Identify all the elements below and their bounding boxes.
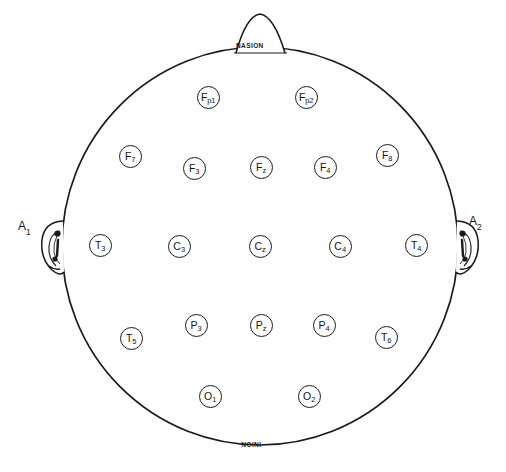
electrode-label: Fp1: [201, 91, 215, 102]
head-outline-svg: [0, 0, 506, 472]
electrode-label-subscript: 4: [326, 323, 330, 332]
electrode-label: P3: [191, 319, 202, 330]
electrode-label-base: P: [191, 318, 198, 330]
electrode-label-base: O: [303, 389, 311, 401]
electrode-label-subscript: 3: [195, 166, 199, 175]
electrode-label: O2: [303, 390, 315, 401]
nasion-label: NASION: [236, 42, 264, 49]
electrode-label-subscript: 4: [326, 165, 330, 174]
right-ear-reference-base: A: [469, 214, 477, 228]
electrode-label: C4: [334, 240, 345, 251]
electrode-label-subscript: 2: [311, 394, 315, 403]
electrode-label-subscript: p2: [305, 95, 313, 104]
electrode-p4[interactable]: P4: [313, 314, 336, 337]
electrode-label-subscript: 7: [131, 154, 135, 163]
electrode-label-subscript: 3: [198, 323, 202, 332]
electrode-label-subscript: 6: [387, 335, 391, 344]
electrode-label: T5: [126, 332, 136, 343]
left-ear-reference-label: A1: [18, 219, 31, 235]
left-ear-icon: [42, 221, 64, 274]
electrode-label-subscript: 8: [388, 153, 392, 162]
electrode-label-base: O: [204, 389, 212, 401]
electrode-label-base: C: [255, 239, 262, 251]
electrode-label: Fp2: [299, 91, 313, 102]
electrode-label-subscript: 4: [417, 243, 421, 252]
electrode-label: O1: [204, 390, 216, 401]
electrode-c3[interactable]: C3: [168, 235, 191, 258]
electrode-label-subscript: 1: [212, 394, 216, 403]
electrode-fz[interactable]: Fz: [250, 156, 273, 179]
electrode-label-base: C: [173, 239, 180, 251]
electrode-p3[interactable]: P3: [185, 314, 208, 337]
inion-label: INION: [241, 441, 261, 448]
electrode-label: T3: [95, 239, 105, 250]
electrode-label: F7: [125, 150, 135, 161]
electrode-t3[interactable]: T3: [89, 234, 112, 257]
electrode-label: P4: [319, 319, 330, 330]
electrode-label: F3: [189, 162, 199, 173]
eeg-electrode-diagram: NASION INION A1 A2 Fp1Fp2F7F3FzF4F8T3C3C…: [0, 0, 506, 472]
electrode-label: Cz: [255, 240, 266, 251]
electrode-label-subscript: z: [262, 244, 266, 253]
electrode-fp2[interactable]: Fp2: [295, 86, 318, 109]
electrode-t4[interactable]: T4: [405, 234, 428, 257]
electrode-label-subscript: 5: [132, 336, 136, 345]
electrode-f3[interactable]: F3: [183, 157, 206, 180]
electrode-label-subscript: p1: [207, 95, 215, 104]
electrode-t6[interactable]: T6: [375, 326, 398, 349]
electrode-label: F8: [382, 149, 392, 160]
electrode-label: F4: [320, 161, 330, 172]
electrode-label: Fz: [256, 161, 266, 172]
electrode-t5[interactable]: T5: [120, 327, 143, 350]
electrode-label-base: P: [256, 318, 263, 330]
electrode-f7[interactable]: F7: [119, 145, 142, 168]
electrode-label: T4: [411, 239, 421, 250]
electrode-label: C3: [173, 240, 184, 251]
left-ear-reference-base: A: [18, 219, 26, 233]
electrode-label-subscript: 3: [101, 243, 105, 252]
electrode-o2[interactable]: O2: [298, 385, 321, 408]
electrode-label-subscript: z: [263, 165, 267, 174]
electrode-o1[interactable]: O1: [199, 385, 222, 408]
electrode-label-base: C: [334, 239, 341, 251]
electrode-pz[interactable]: Pz: [250, 314, 273, 337]
electrode-label-base: P: [319, 318, 326, 330]
left-ear-reference-sub: 1: [26, 227, 31, 237]
electrode-label-subscript: 3: [181, 244, 185, 253]
right-ear-reference-label: A2: [469, 214, 482, 230]
electrode-label-subscript: z: [263, 323, 267, 332]
right-ear-reference-sub: 2: [477, 222, 482, 232]
electrode-label-subscript: 4: [342, 244, 346, 253]
electrode-f8[interactable]: F8: [376, 144, 399, 167]
electrode-cz[interactable]: Cz: [249, 235, 272, 258]
electrode-label: Pz: [256, 319, 266, 330]
electrode-label: T6: [381, 331, 391, 342]
electrode-fp1[interactable]: Fp1: [197, 86, 220, 109]
electrode-c4[interactable]: C4: [329, 235, 352, 258]
electrode-f4[interactable]: F4: [314, 156, 337, 179]
